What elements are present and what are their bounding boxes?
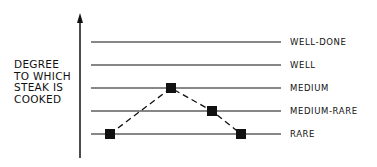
level-label-well-done: WELL-DONE: [290, 37, 347, 47]
arrow-up-icon: [77, 13, 83, 23]
level-lines: [91, 42, 281, 134]
level-label-medium: MEDIUM: [290, 83, 329, 93]
y-axis: [77, 13, 83, 158]
level-label-medium-rare: MEDIUM-RARE: [290, 106, 358, 116]
level-label-well: WELL: [290, 60, 316, 70]
level-label-rare: RARE: [290, 129, 315, 139]
